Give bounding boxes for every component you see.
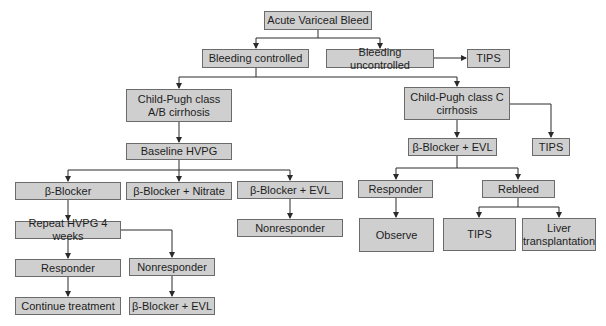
node-bleeding-controlled: Bleeding controlled bbox=[202, 49, 309, 68]
node-liver-transplantation: Liver transplantation bbox=[522, 218, 596, 251]
node-observe: Observe bbox=[359, 218, 434, 252]
node-rebleed: Rebleed bbox=[482, 180, 555, 198]
node-repeat-hvpg: Repeat HVPG 4 weeks bbox=[15, 221, 121, 239]
node-beta-blocker-evl-final: β-Blocker + EVL bbox=[129, 297, 215, 315]
node-bleeding-uncontrolled: Bleeding uncontrolled bbox=[326, 49, 434, 68]
node-beta-blocker: β-Blocker bbox=[15, 182, 121, 200]
node-tips-child-pugh-c: TIPS bbox=[532, 138, 570, 156]
node-tips-uncontrolled: TIPS bbox=[467, 49, 510, 68]
node-responder-ab: Responder bbox=[15, 259, 121, 277]
node-tips-rebleed: TIPS bbox=[443, 218, 516, 251]
node-beta-blocker-nitrate: β-Blocker + Nitrate bbox=[126, 182, 232, 200]
flowchart-canvas: Acute Variceal Bleed Bleeding controlled… bbox=[0, 0, 606, 326]
node-baseline-hvpg: Baseline HVPG bbox=[126, 143, 232, 160]
node-nonresponder-evl: Nonresponder bbox=[237, 219, 343, 237]
node-nonresponder-ab: Nonresponder bbox=[129, 258, 215, 276]
node-beta-blocker-evl-c: β-Blocker + EVL bbox=[408, 138, 497, 156]
node-continue-treatment: Continue treatment bbox=[15, 297, 121, 315]
node-child-pugh-ab: Child-Pugh class A/B cirrhosis bbox=[126, 89, 232, 122]
node-acute-variceal-bleed: Acute Variceal Bleed bbox=[264, 11, 372, 30]
node-responder-c: Responder bbox=[358, 180, 433, 198]
node-beta-blocker-evl-ab: β-Blocker + EVL bbox=[237, 181, 343, 199]
node-child-pugh-c: Child-Pugh class C cirrhosis bbox=[404, 87, 510, 120]
